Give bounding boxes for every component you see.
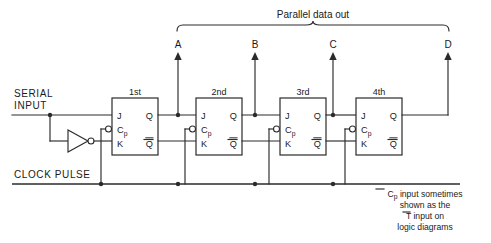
stage-1-name: 1st [129, 87, 142, 97]
flipflop-stage-1: 1st J Cp K Q Q [101, 87, 196, 184]
output-arrow-c [329, 52, 336, 115]
parallel-data-out-title: Parallel data out [277, 9, 349, 20]
output-arrow-d [444, 52, 451, 115]
stage-3-name: 3rd [296, 87, 309, 97]
stage-4-pin-q: Q [390, 111, 397, 121]
stage-1-pin-q: Q [146, 111, 153, 121]
stage-1-pin-cp-sub: p [124, 130, 128, 138]
stage-4-pin-qbar: Q [390, 139, 397, 149]
output-arrow-a [174, 52, 181, 115]
shift-register-diagram: Parallel data out A B C D SERIAL INPUT [0, 0, 491, 243]
serial-input-wire [12, 113, 112, 141]
stage-4-pin-j: J [361, 111, 366, 121]
cp-note-line-4: logic diagrams [397, 222, 452, 232]
stage-3-pin-j: J [285, 111, 290, 121]
output-label-c: C [329, 39, 336, 50]
output-label-d: D [444, 39, 451, 50]
stage-2-name: 2nd [211, 87, 226, 97]
cp-note: Cp input sometimes shown as the T input … [376, 189, 462, 232]
stage-3-pin-qbar: Q [314, 139, 321, 149]
flipflop-stage-4: 4th J Cp K Q Q [345, 87, 448, 184]
stage-2-pin-q: Q [230, 111, 237, 121]
stage-1-pin-k: K [117, 139, 124, 149]
stage-4-name: 4th [373, 87, 386, 97]
clock-bus [12, 182, 460, 186]
circuit-canvas: Parallel data out A B C D SERIAL INPUT [0, 0, 491, 243]
serial-input-label-line1: SERIAL [14, 88, 53, 99]
stage-2-pin-cp-sub: p [208, 130, 212, 138]
cp-note-line-2: shown as the [400, 200, 451, 210]
stage-1-pin-qbar: Q [146, 139, 153, 149]
serial-input-label-line2: INPUT [14, 100, 47, 111]
stage-3-pin-q: Q [314, 111, 321, 121]
cp-note-rest: input sometimes [398, 189, 463, 199]
output-label-b: B [252, 39, 259, 50]
stage-2-pin-j: J [201, 111, 206, 121]
stage-1-pin-j: J [117, 111, 122, 121]
flipflop-stage-3: 3rd J Cp K Q Q [269, 87, 356, 184]
output-arrow-b [251, 52, 258, 115]
clock-pulse-label: CLOCK PULSE [14, 169, 91, 180]
stage-2-pin-qbar: Q [230, 139, 237, 149]
stage-2-pin-k: K [201, 139, 208, 149]
stage-4-pin-k: K [361, 139, 368, 149]
inverter-gate [68, 130, 112, 152]
stage-3-pin-cp-sub: p [292, 130, 296, 138]
cp-note-line-3: T input on [406, 211, 444, 221]
output-label-a: A [175, 39, 182, 50]
cp-note-t-rest: input on [411, 211, 444, 221]
flipflop-stage-2: 2nd J Cp K Q Q [185, 87, 280, 184]
parallel-data-brace [177, 21, 449, 31]
stage-3-pin-k: K [285, 139, 292, 149]
stage-4-pin-cp-sub: p [368, 130, 372, 138]
